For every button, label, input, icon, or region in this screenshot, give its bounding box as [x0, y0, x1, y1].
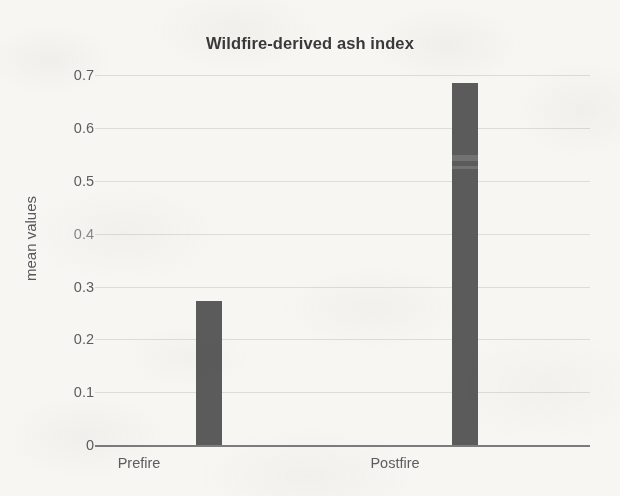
y-tick-0.1: 0.1 [50, 384, 94, 400]
y-tick-0.2: 0.2 [50, 331, 94, 347]
bar-prefire[interactable] [196, 301, 222, 445]
gridline-0.3 [95, 287, 590, 288]
y-tick-0.3: 0.3 [50, 279, 94, 295]
x-tick-prefire: Prefire [69, 455, 209, 471]
gridline-0.7 [95, 75, 590, 76]
y-tick-0.4: 0.4 [50, 226, 94, 242]
gridline-0.1 [95, 392, 590, 393]
y-tick-0.6: 0.6 [50, 120, 94, 136]
x-tick-postfire: Postfire [325, 455, 465, 471]
y-tick-0.5: 0.5 [50, 173, 94, 189]
y-tick-0.7: 0.7 [50, 67, 94, 83]
gridline-0.6 [95, 128, 590, 129]
scan-artifact [452, 166, 478, 169]
gridline-0.4 [95, 234, 590, 235]
y-axis-title: mean values [22, 164, 39, 314]
x-axis-line [95, 445, 590, 447]
bar-postfire[interactable] [452, 83, 478, 445]
y-tick-0: 0 [50, 437, 94, 453]
bar-chart: Wildfire-derived ash index mean values 0… [0, 0, 620, 496]
y-axis-tick-labels: 0.7 0.6 0.5 0.4 0.3 0.2 0.1 0 [50, 0, 94, 496]
gridline-0.5 [95, 181, 590, 182]
scan-artifact [452, 155, 478, 161]
gridline-0.2 [95, 339, 590, 340]
